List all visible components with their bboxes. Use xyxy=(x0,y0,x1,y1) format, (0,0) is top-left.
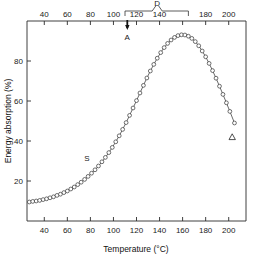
data-point-marker xyxy=(114,140,118,144)
x-tick-label-top: 80 xyxy=(86,10,95,19)
data-point-marker xyxy=(221,93,225,97)
y-tick-label: 60 xyxy=(14,97,23,106)
series-line xyxy=(29,35,234,202)
x-tick-label-top: 180 xyxy=(199,10,213,19)
data-point-marker xyxy=(159,51,163,55)
arrow-label-A: A xyxy=(125,33,131,42)
data-point-marker xyxy=(204,55,208,59)
energy-absorption-scatter-chart: 406080100120140160180200 406080100120140… xyxy=(0,0,253,259)
data-point-marker xyxy=(100,160,104,164)
axes-frame xyxy=(27,21,246,221)
x-tick-label-top: 100 xyxy=(107,10,121,19)
data-point-marker xyxy=(233,121,237,125)
data-point-marker xyxy=(162,46,166,50)
data-point-marker xyxy=(93,168,97,172)
x-tick-label-top: 60 xyxy=(63,10,72,19)
data-point-marker xyxy=(90,171,94,175)
data-point-marker xyxy=(218,84,222,88)
data-point-marker xyxy=(117,134,121,138)
data-point-marker xyxy=(103,156,107,160)
data-point-marker xyxy=(152,63,156,67)
curve-label-S: S xyxy=(84,154,89,163)
data-point-marker xyxy=(166,42,170,46)
data-point-marker xyxy=(138,91,142,95)
y-tick-label: 80 xyxy=(14,57,23,66)
data-point-marker xyxy=(76,183,80,187)
x-tick-label-bottom: 100 xyxy=(107,226,121,235)
x-tick-label-bottom: 160 xyxy=(176,226,190,235)
data-point-marker xyxy=(193,40,197,44)
y-tick-label: 40 xyxy=(14,137,23,146)
data-point-marker xyxy=(197,44,201,48)
data-point-marker xyxy=(79,180,83,184)
data-point-marker xyxy=(190,37,194,41)
x-tick-label-bottom: 80 xyxy=(86,226,95,235)
data-point-marker xyxy=(225,101,229,105)
data-point-marker xyxy=(110,146,114,150)
data-point-marker xyxy=(97,164,101,168)
x-tick-label-bottom: 60 xyxy=(63,226,72,235)
data-point-marker xyxy=(142,84,146,88)
data-point-marker xyxy=(200,49,204,53)
x-axis-top-ticks xyxy=(44,21,228,25)
data-point-marker xyxy=(145,76,149,80)
data-point-marker xyxy=(228,110,232,114)
y-axis-tick-labels: 20406080 xyxy=(14,57,23,186)
chart-figure: 406080100120140160180200 406080100120140… xyxy=(0,0,253,259)
data-point-marker xyxy=(169,38,173,42)
y-axis-title: Energy absorption (%) xyxy=(3,79,13,164)
data-point-marker xyxy=(107,151,111,155)
data-point-marker xyxy=(72,185,76,189)
open-triangle-marker xyxy=(229,134,235,140)
data-series-layer xyxy=(27,33,236,204)
data-point-marker xyxy=(211,69,215,73)
data-point-marker xyxy=(121,127,125,131)
x-tick-label-top: 200 xyxy=(222,10,236,19)
y-axis-ticks xyxy=(27,61,31,181)
bracket-label-D: D xyxy=(154,0,160,8)
data-point-marker xyxy=(128,114,132,118)
x-tick-label-bottom: 200 xyxy=(222,226,236,235)
x-tick-label-top: 40 xyxy=(40,10,49,19)
data-point-marker xyxy=(86,175,90,179)
x-axis-bottom-tick-labels: 406080100120140160180200 xyxy=(40,226,236,235)
arrow-head xyxy=(125,25,129,30)
data-point-marker xyxy=(131,106,135,110)
arrow-A: A xyxy=(125,20,131,42)
x-tick-label-bottom: 140 xyxy=(153,226,167,235)
x-tick-label-bottom: 120 xyxy=(130,226,144,235)
data-point-marker xyxy=(83,178,87,182)
x-axis-title: Temperature (°C) xyxy=(103,244,168,254)
x-tick-label-bottom: 180 xyxy=(199,226,213,235)
y-tick-label: 20 xyxy=(14,177,23,186)
data-point-marker xyxy=(124,121,128,125)
data-point-marker xyxy=(155,56,159,60)
data-series xyxy=(27,33,236,204)
data-point-marker xyxy=(207,62,211,66)
x-axis-bottom-ticks xyxy=(44,217,228,221)
data-point-marker xyxy=(135,99,139,103)
data-point-marker xyxy=(214,76,218,80)
data-point-marker xyxy=(186,34,190,38)
triangle-marker xyxy=(229,134,235,140)
data-point-marker xyxy=(148,69,152,73)
x-tick-label-bottom: 40 xyxy=(40,226,49,235)
